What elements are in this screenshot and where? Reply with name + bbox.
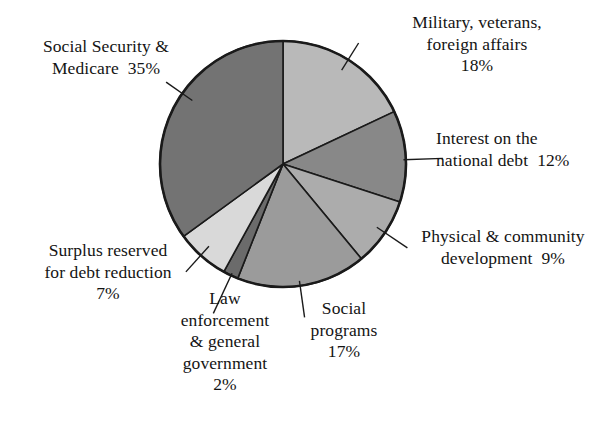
slice-label-social-security: Social Security & Medicare 35% [8, 36, 204, 79]
pie-chart-figure: Social Security & Medicare 35% Military,… [0, 0, 614, 424]
slice-label-military: Military, veterans, foreign affairs 18% [352, 12, 602, 77]
cropped-caption-sliver [6, 412, 426, 422]
slice-label-surplus: Surplus reserved for debt reduction 7% [10, 240, 206, 305]
slice-label-physical: Physical & community development 9% [392, 226, 614, 269]
slice-label-interest: Interest on the national debt 12% [436, 128, 614, 171]
